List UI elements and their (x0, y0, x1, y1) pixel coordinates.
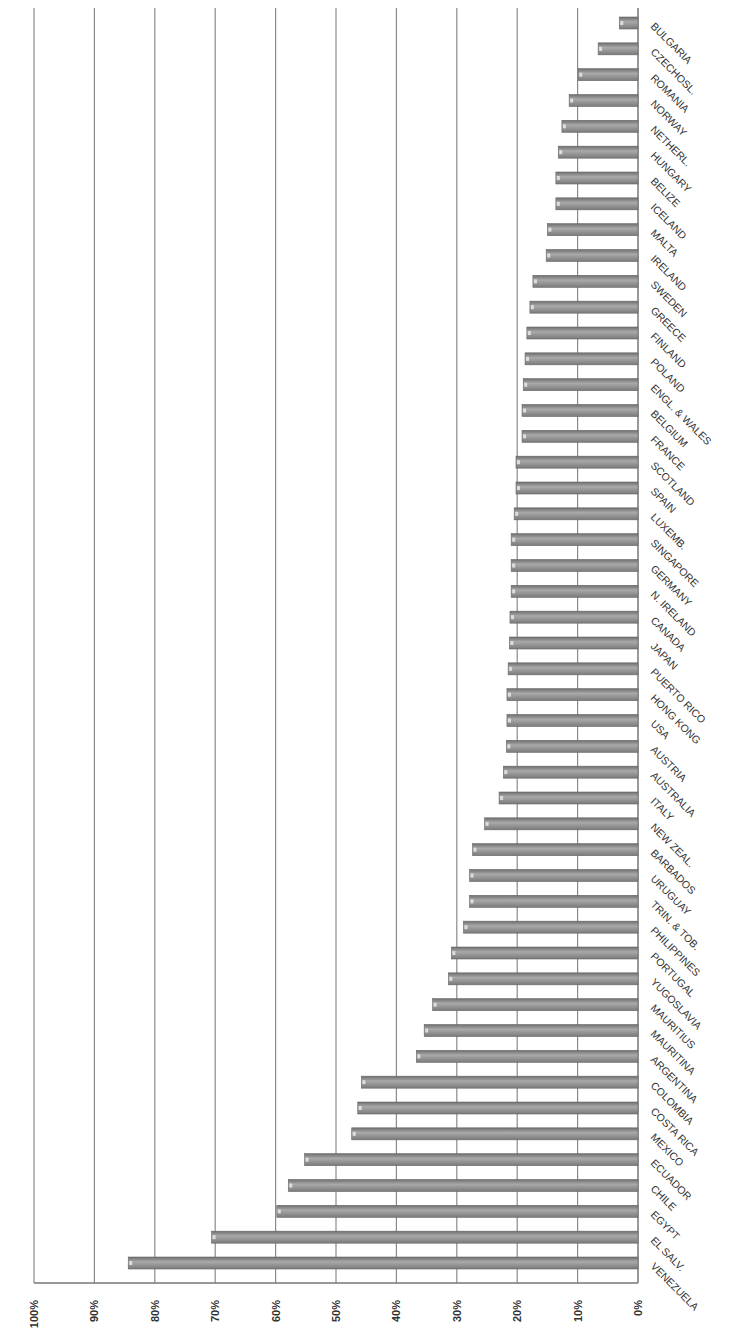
bar (433, 999, 638, 1011)
bar (358, 1102, 638, 1114)
bar-cap (470, 874, 473, 878)
bar (511, 560, 638, 572)
bar-cap (213, 1235, 216, 1239)
bar (506, 740, 638, 752)
bar (485, 818, 638, 830)
bar-cap (559, 150, 562, 154)
bar-cap (449, 977, 452, 981)
bar (305, 1154, 638, 1166)
bar (212, 1231, 638, 1243)
bar-cap (523, 434, 526, 438)
bar-cap (528, 331, 531, 335)
bar (503, 766, 638, 778)
bar-cap (548, 228, 551, 232)
bar-cap (512, 564, 515, 568)
bar (416, 1050, 638, 1062)
bar (288, 1180, 638, 1192)
bar (469, 870, 638, 882)
bar-cap (508, 719, 511, 723)
bar-cap (306, 1158, 309, 1162)
bar-chart: 0%10%20%30%40%50%60%70%80%90%100% VENEZU… (0, 0, 732, 1333)
bar-cap (509, 667, 512, 671)
bar-cap (524, 383, 527, 387)
bar-cap (278, 1209, 281, 1213)
tick-label: 0% (632, 1300, 644, 1316)
bar-cap (517, 460, 520, 464)
bar-cap (470, 899, 473, 903)
tick-label: 30% (451, 1300, 463, 1322)
bar-cap (507, 744, 510, 748)
bar-cap (547, 254, 550, 258)
bar-cap (512, 589, 515, 593)
bar (516, 482, 638, 494)
bar (527, 327, 638, 339)
bar (522, 430, 638, 442)
bar (510, 611, 638, 623)
bar (547, 224, 638, 236)
bar-cap (511, 615, 514, 619)
value-axis-ticks: 0%10%20%30%40%50%60%70%80%90%100% (28, 1300, 644, 1328)
bar (508, 663, 638, 675)
bar (511, 585, 638, 597)
bar-cap (504, 770, 507, 774)
bar (530, 301, 638, 313)
bar (598, 43, 638, 55)
bar-cap (359, 1106, 362, 1110)
bar-cap (464, 925, 467, 929)
bar-cap (526, 357, 529, 361)
bar (546, 250, 638, 262)
bar (451, 947, 638, 959)
bar (523, 379, 638, 391)
bar-cap (517, 486, 520, 490)
bar-cap (434, 1003, 437, 1007)
tick-label: 70% (209, 1300, 221, 1322)
tick-label: 100% (28, 1300, 40, 1328)
bar (499, 792, 638, 804)
bar (556, 198, 638, 210)
bar-cap (557, 176, 560, 180)
bar (277, 1205, 638, 1217)
bar (562, 120, 638, 132)
tick-label: 50% (330, 1300, 342, 1322)
bar-cap (486, 822, 489, 826)
bar-cap (129, 1261, 132, 1265)
bar-cap (563, 124, 566, 128)
bar (463, 921, 638, 933)
bar (533, 275, 638, 287)
tick-label: 20% (511, 1300, 523, 1322)
bar-cap (599, 47, 602, 51)
bar (516, 456, 638, 468)
bar-cap (500, 796, 503, 800)
tick-label: 80% (149, 1300, 161, 1322)
bar-cap (510, 641, 513, 645)
tick-label: 60% (270, 1300, 282, 1322)
bar-cap (362, 1080, 365, 1084)
bar (514, 508, 638, 520)
bar (361, 1076, 638, 1088)
bar (507, 715, 638, 727)
bar (509, 637, 638, 649)
bar-cap (523, 409, 526, 413)
category-label: USA (649, 717, 673, 741)
bar (525, 353, 638, 365)
bar-cap (452, 951, 455, 955)
bar-cap (353, 1132, 356, 1136)
bar (469, 895, 638, 907)
bars (128, 17, 638, 1269)
bar (569, 95, 638, 107)
bar (424, 1025, 638, 1037)
bar (578, 69, 638, 81)
bar-cap (512, 538, 515, 542)
bar-cap (508, 693, 511, 697)
bar (128, 1257, 638, 1269)
bar-cap (289, 1184, 292, 1188)
bar (448, 973, 638, 985)
bar-cap (557, 202, 560, 206)
bar-cap (570, 99, 573, 103)
tick-label: 40% (390, 1300, 402, 1322)
bar-cap (579, 73, 582, 77)
bar (556, 172, 638, 184)
bar-cap (474, 848, 477, 852)
tick-label: 90% (88, 1300, 100, 1322)
bar-cap (534, 279, 537, 283)
